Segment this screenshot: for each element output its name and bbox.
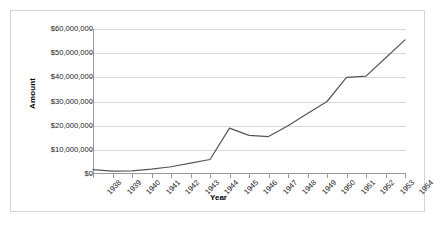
plot-area (93, 29, 406, 174)
x-axis-title: Year (11, 193, 426, 202)
y-tick-label: $10,000,000 (35, 146, 93, 154)
y-tick-label: $20,000,000 (35, 122, 93, 130)
y-tick-label: $0 (35, 170, 93, 178)
series-amount-line (93, 40, 405, 171)
chart-frame: Amount $0$10,000,000$20,000,000$30,000,0… (10, 10, 425, 212)
data-series-line (93, 29, 406, 174)
y-tick-label: $30,000,000 (35, 98, 93, 106)
y-tick-label: $40,000,000 (35, 73, 93, 81)
y-tick-label: $60,000,000 (35, 25, 93, 33)
y-tick-label: $50,000,000 (35, 49, 93, 57)
y-axis-tick-labels: $0$10,000,000$20,000,000$30,000,000$40,0… (35, 11, 93, 211)
